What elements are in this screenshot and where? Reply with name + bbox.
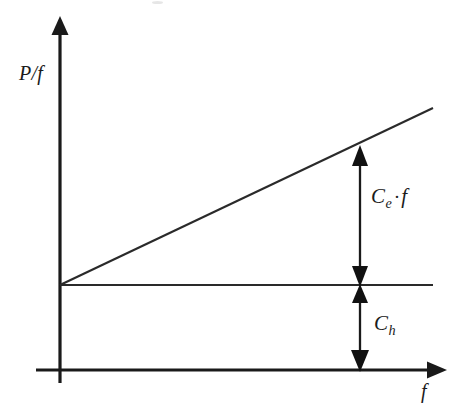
x-axis-arrow-icon xyxy=(427,362,447,379)
y-axis-arrow-icon xyxy=(52,16,69,35)
ce-f-dimension-arrow-down-icon xyxy=(352,266,368,287)
x-axis-label: f xyxy=(421,381,427,401)
ce-f-subscript: e xyxy=(385,195,392,211)
ch-subscript: h xyxy=(388,322,396,338)
ce-f-operand: f xyxy=(401,184,407,208)
y-axis-label: P/f xyxy=(19,63,43,83)
ch-base: C xyxy=(374,311,388,335)
ce-f-base: C xyxy=(371,184,385,208)
ce-f-annotation-label: Ce·f xyxy=(371,186,407,210)
ch-dimension-arrow-up-icon xyxy=(352,284,368,303)
ce-f-operator: · xyxy=(392,186,401,207)
ch-annotation-label: Ch xyxy=(374,313,396,337)
scan-artifact xyxy=(152,1,163,4)
ce-f-dimension-arrow-up-icon xyxy=(352,145,368,166)
diagram-figure: P/f f Ce·f Ch xyxy=(0,0,452,419)
